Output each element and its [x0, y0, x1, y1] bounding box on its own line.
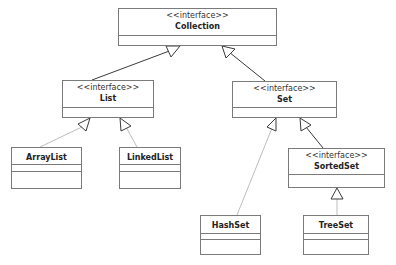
class-name: ArrayList [12, 148, 81, 163]
class-name: List [63, 93, 153, 104]
attributes-compartment [201, 234, 260, 240]
attributes-compartment [304, 234, 368, 240]
edge-linkedlist-list [120, 118, 137, 147]
attributes-compartment [12, 165, 81, 172]
stereotype-label: <<interface>> [289, 149, 384, 161]
hollow-triangle-arrow-icon [222, 46, 235, 58]
class-box-linkedlist[interactable]: LinkedList [119, 147, 181, 189]
class-header: <<interface>> Collection [119, 9, 276, 36]
class-header: TreeSet [304, 216, 368, 234]
edge-treeset-sortedset [331, 188, 343, 215]
hollow-triangle-arrow-icon [166, 46, 180, 57]
class-box-hashset[interactable]: HashSet [200, 215, 261, 255]
class-box-treeset[interactable]: TreeSet [303, 215, 369, 255]
class-header: <<interface>> List [63, 81, 153, 108]
stereotype-label: <<interface>> [233, 82, 336, 94]
class-header: HashSet [201, 216, 260, 234]
stereotype-label: <<interface>> [119, 9, 276, 21]
class-name: TreeSet [304, 216, 368, 231]
class-name: Set [233, 94, 336, 105]
class-box-sortedset[interactable]: <<interface>> SortedSet [288, 148, 385, 188]
edge-sortedset-set [300, 118, 323, 148]
class-name: LinkedList [120, 148, 180, 163]
class-name: HashSet [201, 216, 260, 231]
edge-hashset-set [237, 118, 276, 215]
attributes-compartment [120, 165, 180, 172]
class-header: ArrayList [12, 148, 81, 165]
class-box-collection[interactable]: <<interface>> Collection [118, 8, 277, 46]
class-box-set[interactable]: <<interface>> Set [232, 81, 337, 118]
hollow-triangle-arrow-icon [120, 118, 131, 131]
class-header: <<interface>> Set [233, 82, 336, 108]
class-name: SortedSet [289, 161, 384, 172]
class-header: <<interface>> SortedSet [289, 149, 384, 175]
hollow-triangle-arrow-icon [267, 118, 276, 131]
edge-list-collection [92, 46, 180, 80]
edge-arraylist-list [40, 118, 90, 147]
stereotype-label: <<interface>> [63, 81, 153, 93]
hollow-triangle-arrow-icon [331, 188, 343, 199]
class-header: LinkedList [120, 148, 180, 165]
class-name: Collection [119, 21, 276, 32]
hollow-triangle-arrow-icon [300, 118, 311, 131]
class-box-arraylist[interactable]: ArrayList [11, 147, 82, 189]
edge-set-collection [222, 46, 265, 81]
hollow-triangle-arrow-icon [78, 118, 90, 131]
class-box-list[interactable]: <<interface>> List [62, 80, 154, 118]
